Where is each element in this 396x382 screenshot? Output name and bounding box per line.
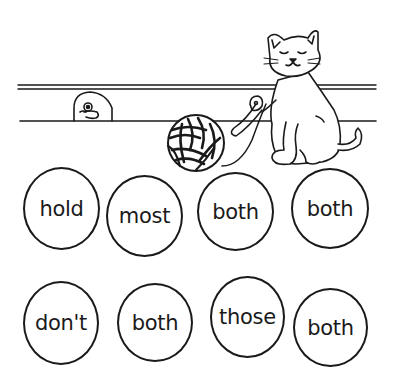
word-bubble[interactable]: hold — [23, 167, 100, 250]
word-label: both — [307, 316, 354, 340]
word-label: those — [219, 305, 276, 329]
word-label: both — [132, 311, 179, 335]
cat-icon — [262, 31, 362, 165]
worksheet-scene: hold most both both don't both those bot… — [0, 0, 396, 382]
word-label: both — [307, 197, 354, 221]
word-bubble[interactable]: most — [106, 175, 183, 257]
word-bubble[interactable]: don't — [23, 281, 99, 365]
word-bubble[interactable]: both — [293, 288, 368, 367]
word-bubble[interactable]: both — [291, 168, 369, 249]
word-label: both — [212, 200, 259, 224]
word-label: hold — [39, 197, 83, 221]
word-bubble[interactable]: those — [210, 276, 285, 358]
word-bubble[interactable]: both — [117, 283, 193, 362]
word-label: most — [119, 204, 170, 228]
yarn-ball-icon — [168, 96, 266, 171]
word-bubble[interactable]: both — [197, 172, 274, 251]
mouse-icon — [74, 92, 112, 121]
word-label: don't — [35, 311, 87, 335]
